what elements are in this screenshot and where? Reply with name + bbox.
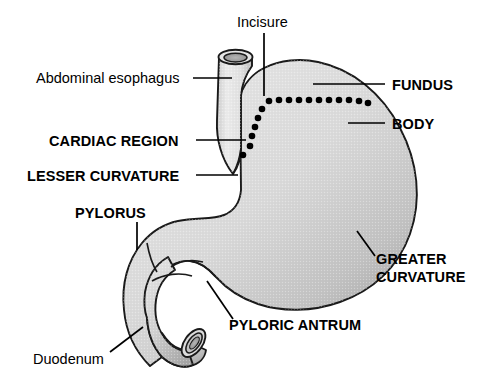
label-pylorus: PYLORUS [75, 205, 146, 221]
stomach-anatomy-figure: Incisure Abdominal esophagus CARDIAC REG… [0, 0, 499, 388]
label-greater-curvature-line1: GREATER [376, 251, 447, 267]
label-body: BODY [392, 116, 435, 132]
label-pyloric-antrum: PYLORIC ANTRUM [229, 317, 361, 333]
label-lesser-curvature: LESSER CURVATURE [27, 168, 179, 184]
label-abdominal-esophagus: Abdominal esophagus [36, 70, 180, 86]
esophagus-lumen [224, 53, 247, 62]
label-cardiac-region: CARDIAC REGION [49, 133, 179, 149]
label-greater-curvature-line2: CURVATURE [376, 269, 466, 285]
label-fundus: FUNDUS [392, 77, 453, 93]
label-duodenum: Duodenum [33, 351, 104, 367]
label-incisure: Incisure [237, 14, 288, 30]
